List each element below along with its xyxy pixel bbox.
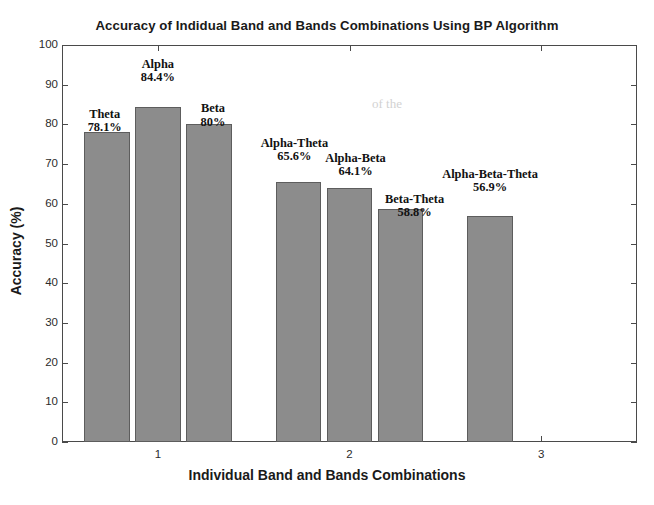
y-tick-mark: [631, 402, 637, 403]
bar: [378, 209, 424, 442]
y-tick-label: 100: [39, 39, 58, 51]
bar-chart-figure: Accuracy of Indidual Band and Bands Comb…: [0, 0, 654, 505]
x-tick-mark: [350, 45, 351, 51]
x-axis-title: Individual Band and Bands Combinations: [0, 467, 654, 483]
bar: [327, 188, 373, 442]
y-tick-mark: [631, 323, 637, 324]
page-scan-artifact: [40, 484, 54, 500]
x-tick-mark: [541, 45, 542, 51]
page-scan-artifact: [300, 487, 304, 503]
y-tick-mark: [62, 442, 68, 443]
y-tick-mark: [62, 323, 68, 324]
chart-title: Accuracy of Indidual Band and Bands Comb…: [0, 18, 654, 33]
bar: [276, 182, 322, 442]
y-tick-label: 10: [45, 396, 58, 408]
y-tick-label: 30: [45, 317, 58, 329]
y-tick-mark: [631, 164, 637, 165]
y-tick-mark: [631, 45, 637, 46]
y-tick-mark: [631, 363, 637, 364]
y-axis-title: Accuracy (%): [8, 151, 24, 351]
y-tick-label: 20: [45, 357, 58, 369]
y-tick-mark: [62, 45, 68, 46]
bar: [84, 132, 130, 442]
y-tick-mark: [631, 244, 637, 245]
y-tick-mark: [62, 402, 68, 403]
y-tick-mark: [62, 124, 68, 125]
y-tick-mark: [631, 124, 637, 125]
y-tick-mark: [62, 85, 68, 86]
x-tick-mark: [158, 45, 159, 51]
y-tick-label: 70: [45, 158, 58, 170]
y-tick-label: 80: [45, 118, 58, 130]
bar: [135, 107, 181, 442]
bar: [467, 216, 513, 442]
y-tick-label: 40: [45, 277, 58, 289]
x-tick-label: 2: [330, 448, 370, 460]
y-tick-mark: [62, 244, 68, 245]
y-tick-label: 0: [52, 436, 58, 448]
y-tick-mark: [62, 283, 68, 284]
y-tick-mark: [631, 283, 637, 284]
x-tick-mark: [541, 436, 542, 442]
y-tick-mark: [62, 204, 68, 205]
y-tick-label: 90: [45, 79, 58, 91]
y-tick-mark: [631, 442, 637, 443]
bar: [186, 124, 232, 442]
y-tick-mark: [631, 85, 637, 86]
y-tick-label: 50: [45, 238, 58, 250]
x-tick-label: 1: [138, 448, 178, 460]
y-tick-mark: [62, 363, 68, 364]
y-tick-mark: [62, 164, 68, 165]
y-tick-mark: [631, 204, 637, 205]
y-tick-label: 60: [45, 198, 58, 210]
x-tick-label: 3: [521, 448, 561, 460]
